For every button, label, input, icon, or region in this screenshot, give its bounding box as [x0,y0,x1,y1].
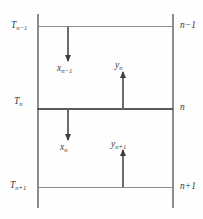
vapor-composition-label-stage: yn [115,61,123,71]
composition-sub: n [64,146,67,153]
stage-index-label-current: n [180,103,185,113]
tray-line-above [37,26,173,27]
liquid-flow-arrow-above [63,27,73,61]
temperature-sub: n−1 [16,24,27,31]
temperature-sub: n+1 [15,184,26,191]
temperature-label-stage: Tn [14,97,23,107]
liquid-flow-arrow-stage [63,110,73,140]
composition-sub: n [119,64,122,71]
arrow-head-down-icon [65,134,71,141]
tray-line-below [37,187,173,188]
vapor-flow-arrow-stage [118,72,128,109]
column-wall-left [37,14,39,208]
stage-index-label-above: n−1 [180,21,196,31]
vapor-flow-arrow-below [118,150,128,187]
column-wall-right [172,14,174,208]
arrow-head-up-icon [120,149,126,156]
arrow-head-up-icon [120,71,126,78]
vapor-composition-label-below: yn+1 [111,140,126,150]
stage-index-label-below: n+1 [180,182,196,192]
tray-diagram-canvas: Tn−1 Tn Tn+1 n−1 n n+1 xn−1 yn xn yn+1 [0,0,203,219]
temperature-label-above: Tn−1 [11,21,27,31]
composition-sub: n+1 [115,143,126,150]
liquid-composition-label-above: xn−1 [57,64,72,74]
temperature-sub: n [19,100,22,107]
tray-line-stage-n [37,108,173,110]
composition-sub: n−1 [61,67,72,74]
liquid-composition-label-stage: xn [60,143,68,153]
temperature-label-below: Tn+1 [10,181,26,191]
arrow-head-down-icon [65,55,71,62]
